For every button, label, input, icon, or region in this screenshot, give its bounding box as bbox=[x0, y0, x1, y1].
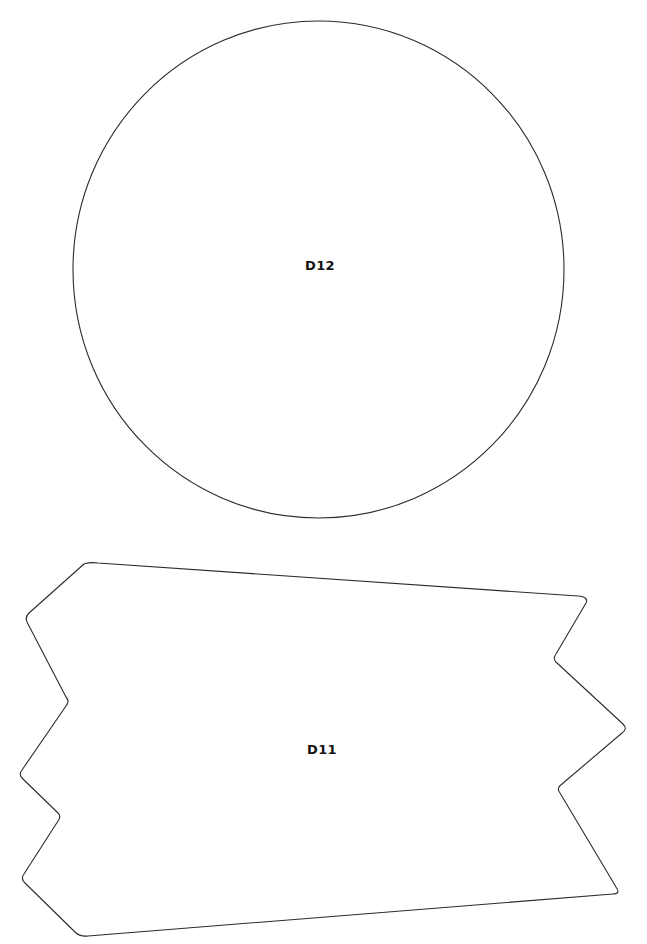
part-d11[interactable]: D11 bbox=[20, 563, 625, 937]
part-d12[interactable]: D12 bbox=[73, 21, 564, 518]
part-d12-label: D12 bbox=[305, 258, 335, 273]
pattern-sheet-page: D12 D11 bbox=[0, 0, 647, 944]
part-d11-label: D11 bbox=[307, 742, 337, 757]
pattern-drawing-canvas: D12 D11 bbox=[0, 0, 647, 944]
